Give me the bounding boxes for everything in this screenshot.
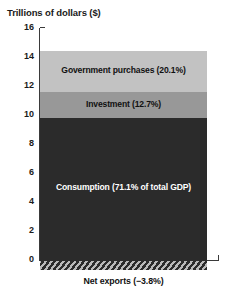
y-tick-label-0: 0 (0, 254, 34, 264)
y-axis-title: Trillions of dollars ($) (7, 7, 101, 18)
bar-segment-consumption: Consumption (71.1% of total GDP) (40, 118, 207, 261)
gdp-components-stacked-bar-chart: Trillions of dollars ($) 16 14 12 10 8 6… (0, 0, 233, 298)
bar-segment-label-net-exports: Net exports (−3.8%) (40, 276, 207, 286)
bar-segment-government-purchases: Government purchases (20.1%) (40, 51, 207, 92)
y-tick-label-4: 4 (0, 196, 34, 206)
y-tick-label-2: 2 (0, 225, 34, 235)
bar-segment-label-government-purchases: Government purchases (20.1%) (40, 65, 207, 75)
y-tick-mark-16 (40, 27, 45, 28)
y-tick-label-16: 16 (0, 22, 34, 32)
bar-segment-label-consumption: Consumption (71.1% of total GDP) (40, 182, 207, 192)
y-tick-label-14: 14 (0, 51, 34, 61)
bar-segment-net-exports (40, 261, 207, 270)
y-tick-label-8: 8 (0, 138, 34, 148)
y-tick-label-6: 6 (0, 167, 34, 177)
bar-segment-label-investment: Investment (12.7%) (40, 99, 207, 109)
y-tick-label-10: 10 (0, 109, 34, 119)
x-axis-end-tick (218, 255, 219, 261)
bar-segment-investment: Investment (12.7%) (40, 92, 207, 118)
y-tick-label-12: 12 (0, 80, 34, 90)
